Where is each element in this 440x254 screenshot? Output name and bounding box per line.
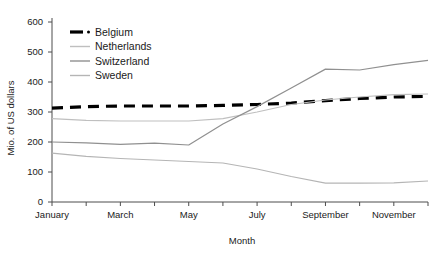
- y-tick-label: 400: [27, 76, 43, 87]
- series-line-sweden: [52, 153, 428, 183]
- y-tick-label: 100: [27, 166, 43, 177]
- y-tick-label: 600: [27, 16, 43, 27]
- chart-canvas: 0100200300400500600 JanuaryMarchMayJulyS…: [0, 0, 440, 254]
- line-chart: 0100200300400500600 JanuaryMarchMayJulyS…: [0, 0, 440, 254]
- x-tick-label: November: [372, 209, 416, 220]
- legend-label-sweden: Sweden: [95, 69, 133, 81]
- x-tick-label: September: [302, 209, 348, 220]
- y-axis-tick-labels: 0100200300400500600: [27, 16, 43, 207]
- y-tick-label: 500: [27, 46, 43, 57]
- legend-label-switzerland: Switzerland: [95, 55, 149, 67]
- x-tick-label: May: [180, 209, 198, 220]
- y-axis-tick-marks: [48, 22, 52, 202]
- y-tick-label: 0: [38, 196, 43, 207]
- legend-swatch-dot-belgium: [87, 31, 90, 34]
- x-axis-title: Month: [229, 235, 255, 246]
- y-tick-label: 200: [27, 136, 43, 147]
- series-line-belgium: [52, 96, 428, 108]
- x-tick-label: March: [107, 209, 133, 220]
- legend-label-belgium: Belgium: [95, 26, 133, 38]
- x-axis-tick-marks: [52, 202, 428, 206]
- y-tick-label: 300: [27, 106, 43, 117]
- x-axis-tick-labels: JanuaryMarchMayJulySeptemberNovember: [35, 209, 416, 220]
- y-axis-title: Mio. of US dollars: [5, 80, 16, 155]
- legend-label-netherlands: Netherlands: [95, 40, 152, 52]
- chart-legend: BelgiumNetherlandsSwitzerlandSweden: [70, 26, 152, 82]
- x-tick-label: July: [249, 209, 266, 220]
- x-tick-label: January: [35, 209, 69, 220]
